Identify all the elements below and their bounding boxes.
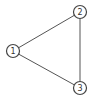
node-1-label: 1 — [10, 47, 15, 56]
node-2: 2 — [74, 6, 87, 19]
edges — [13, 12, 80, 88]
edge-1-2 — [13, 12, 80, 51]
graph-diagram: 1 2 3 — [0, 0, 93, 99]
node-3-label: 3 — [77, 84, 82, 93]
edge-1-3 — [13, 51, 80, 88]
node-2-label: 2 — [77, 8, 82, 17]
node-1: 1 — [7, 45, 20, 58]
node-3: 3 — [74, 82, 87, 95]
